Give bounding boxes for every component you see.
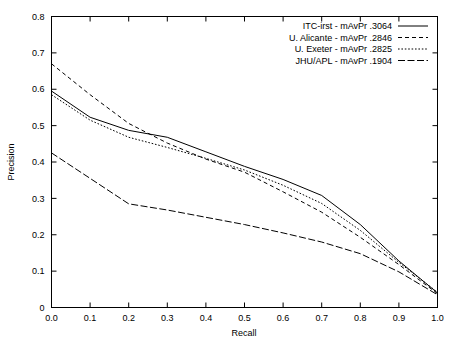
x-tick-label: 0.0: [45, 313, 58, 323]
y-tick-label: 0.6: [32, 84, 45, 94]
x-tick-label: 0.4: [200, 313, 213, 323]
x-axis-tick-labels: 0.00.10.20.30.40.50.60.70.80.91.0: [45, 313, 444, 323]
x-tick-label: 0.1: [84, 313, 97, 323]
y-axis-tick-labels: 00.10.20.30.40.50.60.70.8: [32, 12, 45, 313]
y-tick-label: 0.3: [32, 194, 45, 204]
y-tick-label: 0: [39, 303, 44, 313]
x-tick-label: 0.8: [354, 313, 367, 323]
y-tick-label: 0.4: [32, 157, 45, 167]
y-tick-label: 0.5: [32, 121, 45, 131]
chart-canvas: 0.00.10.20.30.40.50.60.70.80.91.0 00.10.…: [0, 0, 463, 348]
x-tick-label: 0.5: [238, 313, 251, 323]
legend-label-0: ITC-irst - mAvPr .3064: [303, 21, 392, 31]
x-tick-label: 0.6: [277, 313, 290, 323]
x-tick-label: 0.9: [393, 313, 406, 323]
x-tick-label: 0.7: [315, 313, 328, 323]
y-tick-label: 0.1: [32, 266, 45, 276]
series-line-0: [52, 91, 438, 293]
y-axis-title: Precision: [6, 143, 16, 180]
x-tick-label: 0.2: [122, 313, 135, 323]
legend-label-1: U. Alicante - mAvPr .2846: [289, 33, 392, 43]
x-tick-label: 0.3: [161, 313, 174, 323]
series-line-1: [52, 64, 438, 294]
y-tick-label: 0.8: [32, 12, 45, 22]
series-line-2: [52, 95, 438, 293]
series-line-3: [52, 153, 438, 295]
series-lines: [52, 64, 438, 295]
precision-recall-chart: 0.00.10.20.30.40.50.60.70.80.91.0 00.10.…: [0, 0, 463, 348]
legend-label-2: U. Exeter - mAvPr .2825: [295, 44, 392, 54]
x-axis-title: Recall: [231, 328, 256, 338]
y-tick-label: 0.2: [32, 230, 45, 240]
x-tick-label: 1.0: [431, 313, 444, 323]
chart-legend: ITC-irst - mAvPr .3064U. Alicante - mAvP…: [289, 21, 428, 65]
legend-label-3: JHU/APL - mAvPr .1904: [295, 56, 392, 66]
y-tick-label: 0.7: [32, 48, 45, 58]
